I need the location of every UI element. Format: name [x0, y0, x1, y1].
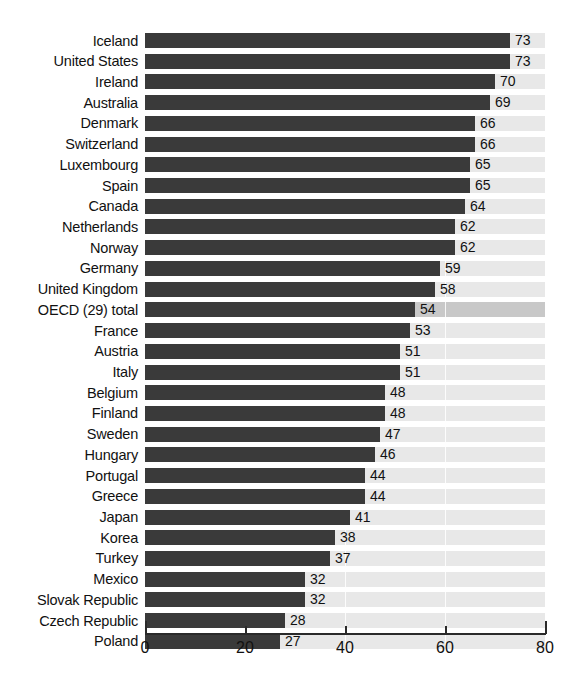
gridline [545, 282, 546, 297]
category-label: Japan [0, 510, 138, 525]
gridline [345, 572, 346, 587]
gridline [545, 219, 546, 234]
chart-row: United Kingdom58 [0, 281, 570, 302]
bar-track [145, 74, 545, 89]
x-tick-mark [545, 621, 547, 634]
bar [145, 240, 455, 255]
chart-row: Norway62 [0, 239, 570, 260]
bar-track [145, 240, 545, 255]
bar-track [145, 302, 545, 317]
chart-row: Switzerland66 [0, 136, 570, 157]
x-tick-label: 20 [223, 638, 267, 658]
bar [145, 344, 400, 359]
gridline [545, 447, 546, 462]
chart-row: Turkey37 [0, 550, 570, 571]
bar [145, 592, 305, 607]
category-label: Australia [0, 96, 138, 111]
chart-row: Portugal44 [0, 467, 570, 488]
horizontal-bar-chart: Iceland73United States73Ireland70Austral… [0, 0, 570, 690]
chart-row: Denmark66 [0, 115, 570, 136]
bar-value-label: 32 [310, 592, 326, 607]
bar-value-label: 51 [405, 344, 421, 359]
chart-row: OECD (29) total54 [0, 301, 570, 322]
bar [145, 385, 385, 400]
gridline [545, 427, 546, 442]
bar-value-label: 64 [470, 199, 486, 214]
gridline [445, 427, 446, 442]
gridline [545, 261, 546, 276]
bar-value-label: 51 [405, 365, 421, 380]
chart-row: Luxembourg65 [0, 156, 570, 177]
gridline [545, 551, 546, 566]
gridline [545, 530, 546, 545]
bar-value-label: 48 [390, 385, 406, 400]
category-label: Switzerland [0, 137, 138, 152]
bar [145, 365, 400, 380]
bar [145, 572, 305, 587]
category-label: Slovak Republic [0, 593, 138, 608]
bar [145, 406, 385, 421]
chart-row: United States73 [0, 53, 570, 74]
bar-track [145, 592, 545, 607]
gridline [445, 551, 446, 566]
bar-value-label: 28 [290, 613, 306, 628]
category-label: United Kingdom [0, 282, 138, 297]
bar-value-label: 27 [285, 634, 301, 649]
bar-value-label: 44 [370, 468, 386, 483]
bar-value-label: 48 [390, 406, 406, 421]
x-tick-label: 0 [123, 638, 167, 658]
bar [145, 447, 375, 462]
x-tick-mark [445, 626, 447, 634]
bar [145, 219, 455, 234]
bar [145, 489, 365, 504]
chart-row: Greece44 [0, 488, 570, 509]
chart-row: Italy51 [0, 364, 570, 385]
bar [145, 551, 330, 566]
bar [145, 74, 495, 89]
bar [145, 427, 380, 442]
bar [145, 530, 335, 545]
gridline [545, 323, 546, 338]
bar-value-label: 32 [310, 572, 326, 587]
chart-plot-area: Iceland73United States73Ireland70Austral… [0, 32, 570, 654]
chart-row: Mexico32 [0, 571, 570, 592]
x-tick-label: 40 [323, 638, 367, 658]
bar-value-label: 66 [480, 116, 496, 131]
gridline [445, 510, 446, 525]
gridline [445, 489, 446, 504]
chart-row: Japan41 [0, 509, 570, 530]
chart-row: Germany59 [0, 260, 570, 281]
bar-value-label: 66 [480, 137, 496, 152]
bar-value-label: 65 [475, 178, 491, 193]
bar-track [145, 385, 545, 400]
bar-value-label: 62 [460, 240, 476, 255]
chart-row: Korea38 [0, 529, 570, 550]
chart-row: Spain65 [0, 177, 570, 198]
gridline [445, 365, 446, 380]
category-label: Poland [0, 634, 138, 649]
chart-row: Iceland73 [0, 32, 570, 53]
bar-track [145, 219, 545, 234]
gridline [545, 137, 546, 152]
gridline [545, 157, 546, 172]
gridline [545, 365, 546, 380]
chart-row: Slovak Republic32 [0, 591, 570, 612]
gridline [445, 302, 446, 317]
category-label: Iceland [0, 34, 138, 49]
bar-track [145, 33, 545, 48]
bar-value-label: 44 [370, 489, 386, 504]
category-label: Korea [0, 531, 138, 546]
category-label: Ireland [0, 75, 138, 90]
bar-track [145, 261, 545, 276]
gridline [445, 344, 446, 359]
bar [145, 95, 490, 110]
x-tick-mark [145, 621, 147, 634]
gridline [445, 323, 446, 338]
category-label: Belgium [0, 386, 138, 401]
category-label: Norway [0, 241, 138, 256]
bar [145, 33, 510, 48]
category-label: Denmark [0, 116, 138, 131]
gridline [445, 530, 446, 545]
category-label: United States [0, 54, 138, 69]
gridline [545, 385, 546, 400]
